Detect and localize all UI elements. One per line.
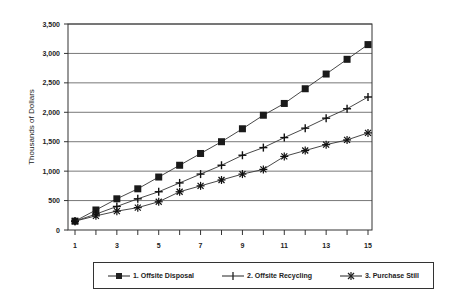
asterisk-marker <box>280 152 288 160</box>
asterisk-marker <box>301 147 309 155</box>
y-tick-label: 2,000 <box>42 109 60 117</box>
square-marker <box>344 56 351 63</box>
asterisk-marker <box>259 165 267 173</box>
plus-marker <box>155 188 163 196</box>
legend-label: 2. Offsite Recycling <box>247 272 312 279</box>
square-marker <box>113 195 120 202</box>
y-tick-label: 1,000 <box>42 168 60 176</box>
asterisk-marker <box>343 136 351 144</box>
x-tick-label: 11 <box>281 242 289 249</box>
x-axis-ticks: 13579111315 <box>73 230 372 249</box>
square-marker <box>176 162 183 169</box>
y-axis-ticks: 05001,0001,5002,0002,5003,0003,500 <box>42 21 68 234</box>
plus-marker <box>176 179 184 187</box>
x-tick-label: 15 <box>364 242 372 249</box>
square-marker <box>260 112 267 119</box>
y-tick-label: 3,000 <box>42 50 60 58</box>
square-marker <box>365 41 372 48</box>
x-tick-label: 1 <box>73 242 77 249</box>
plus-marker <box>301 124 309 132</box>
legend-label: 1. Offsite Disposal <box>133 272 194 279</box>
plus-marker-icon <box>222 272 244 280</box>
x-tick-label: 7 <box>199 242 203 249</box>
square-marker <box>134 185 141 192</box>
gridlines <box>68 24 372 201</box>
x-tick-label: 5 <box>157 242 161 249</box>
y-tick-label: 500 <box>48 197 60 204</box>
plus-marker <box>134 195 142 203</box>
y-axis-label: Thousands of Dollars <box>27 89 36 165</box>
legend-item-disposal: 1. Offsite Disposal <box>108 272 194 280</box>
plus-marker <box>322 114 330 122</box>
plus-marker <box>218 161 226 169</box>
asterisk-marker <box>322 141 330 149</box>
series-line <box>75 97 368 221</box>
plus-marker <box>280 134 288 142</box>
asterisk-marker <box>238 170 246 178</box>
asterisk-marker <box>176 188 184 196</box>
asterisk-marker <box>113 207 121 215</box>
y-tick-label: 0 <box>56 227 60 234</box>
legend: 1. Offsite Disposal 2. Offsite Recycling… <box>93 262 434 289</box>
square-marker-icon <box>108 272 130 280</box>
square-marker <box>197 150 204 157</box>
x-tick-label: 9 <box>240 242 244 249</box>
plus-marker <box>343 105 351 113</box>
square-marker <box>239 125 246 132</box>
asterisk-marker <box>364 129 372 137</box>
x-tick-label: 3 <box>115 242 119 249</box>
y-tick-label: 3,500 <box>42 21 60 29</box>
legend-item-still: 3. Purchase Still <box>340 272 419 280</box>
data-series <box>71 41 372 225</box>
asterisk-marker <box>155 198 163 206</box>
asterisk-marker <box>92 212 100 220</box>
plus-marker <box>364 93 372 101</box>
square-marker <box>281 100 288 107</box>
square-marker <box>218 138 225 145</box>
asterisk-marker <box>218 176 226 184</box>
asterisk-marker <box>197 182 205 190</box>
square-marker <box>155 174 162 181</box>
plus-marker <box>238 151 246 159</box>
x-tick-label: 13 <box>322 242 330 249</box>
line-chart: 05001,0001,5002,0002,5003,0003,500 13579… <box>0 0 449 260</box>
square-marker <box>323 71 330 78</box>
square-marker <box>302 85 309 92</box>
plus-marker <box>259 144 267 152</box>
asterisk-marker-icon <box>340 272 362 280</box>
asterisk-marker <box>71 217 79 225</box>
legend-label: 3. Purchase Still <box>365 272 419 279</box>
legend-item-recycling: 2. Offsite Recycling <box>222 272 312 280</box>
y-tick-label: 2,500 <box>42 79 60 87</box>
y-tick-label: 1,500 <box>42 138 60 146</box>
asterisk-marker <box>134 204 142 212</box>
